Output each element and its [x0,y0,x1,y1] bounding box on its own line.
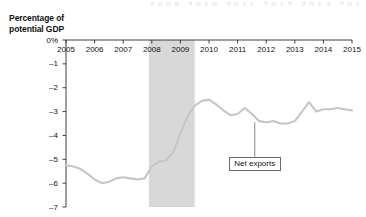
y-tick-label: 0% [32,36,58,45]
x-tick-label: 2007 [108,45,138,54]
recession-band [149,40,195,207]
x-tick-label: 2008 [137,45,167,54]
data-series-lines [66,100,352,184]
y-tick-label: –4 [32,131,58,140]
x-tick-label: 2013 [280,45,310,54]
x-tick-label: 2015 [337,45,366,54]
recession-shading [149,40,195,207]
x-tick-label: 2011 [223,45,253,54]
x-tick-label: 2010 [194,45,224,54]
y-tick-label: –3 [32,107,58,116]
series-line [66,100,352,184]
bleed-through-year-row: 2009 2010 2011 2012 2013 2014 2015 [150,0,360,6]
y-tick-label: –1 [32,59,58,68]
y-tick-label: –7 [32,203,58,212]
x-tick-label: 2014 [308,45,338,54]
x-tick-label: 2006 [80,45,110,54]
x-tick-label: 2009 [165,45,195,54]
x-tick-label: 2012 [251,45,281,54]
x-tick-label: 2005 [51,45,81,54]
y-axis-title: Percentage of potential GDP [2,13,64,34]
y-tick-label: –6 [32,179,58,188]
y-tick-label: –2 [32,83,58,92]
y-tick-label: –5 [32,155,58,164]
net-exports-callout: Net exports [229,157,281,171]
